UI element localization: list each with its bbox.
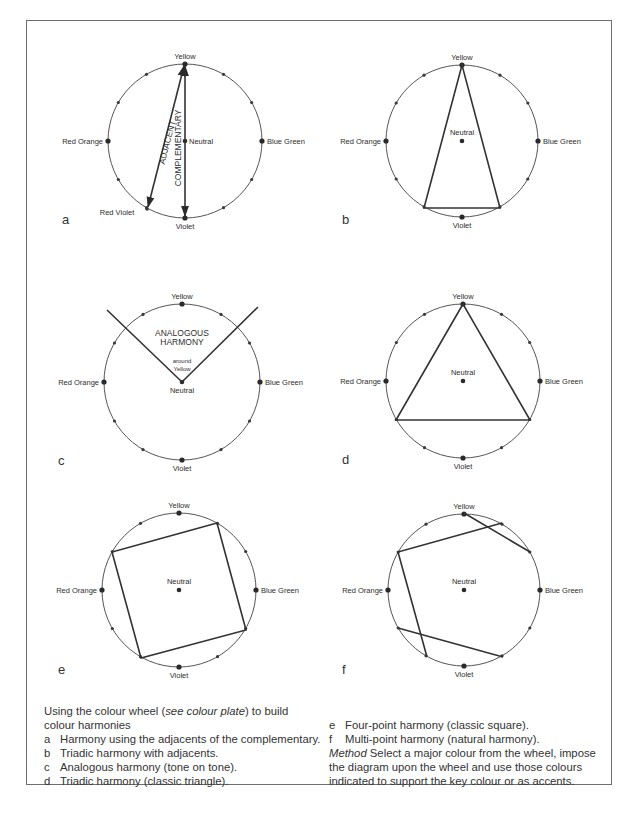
primary-hue-dot — [179, 301, 184, 306]
neutral-label: Neutral — [452, 577, 477, 586]
caption-item-f: fMulti-point harmony (natural harmony). — [329, 732, 614, 746]
hue-dot — [111, 627, 114, 630]
primary-hue-dot — [537, 378, 542, 383]
hue-dot — [395, 341, 398, 344]
colour-wheel-f: YellowVioletRed OrangeBlue GreenNeutral — [342, 502, 583, 679]
violet-label: Violet — [176, 222, 196, 231]
neutral-label: Neutral — [189, 137, 214, 146]
hue-dot — [250, 178, 253, 181]
blue-green-label: Blue Green — [545, 586, 583, 595]
multipoint-line-2 — [398, 523, 502, 657]
red-orange-label: Red Orange — [340, 137, 381, 146]
hue-dot — [250, 101, 253, 104]
hue-dot — [423, 313, 426, 316]
primary-hue-dot — [535, 138, 540, 143]
primary-hue-dot — [257, 379, 262, 384]
caption-item-d: dTriadic harmony (classic triangle). — [44, 774, 334, 788]
panel-letter-a: a — [62, 212, 70, 227]
hue-dot — [528, 341, 531, 344]
panel-a: YellowVioletRed OrangeBlue GreenNeutral … — [62, 52, 305, 231]
caption-method-line3: indicated to support the key colour or a… — [329, 774, 614, 788]
primary-hue-dot — [259, 138, 264, 143]
primary-hue-dot — [253, 587, 258, 592]
blue-green-label: Blue Green — [265, 378, 303, 387]
hue-dot — [219, 313, 222, 316]
hue-dot — [145, 73, 148, 76]
classic-triangle — [396, 304, 530, 420]
hue-dot — [113, 419, 116, 422]
red-violet-label: Red Violet — [100, 208, 135, 217]
primary-hue-dot — [182, 61, 187, 66]
blue-green-label: Blue Green — [545, 377, 583, 386]
colour-wheel-c: YellowVioletRed OrangeBlue GreenNeutral — [58, 292, 303, 473]
analogous-sub-1: around — [173, 358, 192, 364]
violet-label: Violet — [453, 221, 473, 230]
primary-hue-dot — [176, 664, 181, 669]
primary-hue-dot — [383, 138, 388, 143]
multipoint-line-1 — [464, 513, 530, 552]
primary-hue-dot — [105, 138, 110, 143]
hue-dot — [424, 523, 427, 526]
blue-green-label: Blue Green — [261, 586, 299, 595]
hue-dot — [117, 101, 120, 104]
caption-item-b: bTriadic harmony with adjacents. — [44, 746, 334, 760]
hue-dot — [395, 177, 398, 180]
blue-green-label: Blue Green — [267, 137, 305, 146]
neutral-dot — [177, 588, 182, 593]
primary-hue-dot — [101, 379, 106, 384]
analogous-title-2: HARMONY — [160, 337, 204, 347]
panel-d: YellowVioletRed OrangeBlue GreenNeutral … — [340, 292, 583, 471]
panel-c: YellowVioletRed OrangeBlue GreenNeutral … — [58, 292, 303, 473]
neutral-label: Neutral — [167, 577, 192, 586]
primary-hue-dot — [460, 455, 465, 460]
hue-dot — [113, 341, 116, 344]
violet-label: Violet — [173, 464, 193, 473]
colour-harmony-diagrams: YellowVioletRed OrangeBlue GreenNeutral … — [0, 0, 630, 819]
colour-wheel-a: YellowVioletRed OrangeBlue GreenNeutral — [62, 52, 305, 231]
primary-hue-dot — [461, 663, 466, 668]
hue-dot — [117, 178, 120, 181]
neutral-dot — [461, 379, 466, 384]
panel-letter-e: e — [58, 662, 65, 677]
primary-hue-dot — [179, 457, 184, 462]
red-orange-label: Red Orange — [62, 137, 103, 146]
hue-dot — [526, 101, 529, 104]
red-orange-label: Red Orange — [56, 586, 97, 595]
hue-dot — [141, 313, 144, 316]
primary-hue-dot — [176, 510, 181, 515]
primary-hue-dot — [385, 587, 390, 592]
hue-dot — [395, 101, 398, 104]
red-orange-label: Red Orange — [58, 378, 99, 387]
hue-dot — [423, 446, 426, 449]
hue-dot — [528, 626, 531, 629]
primary-hue-dot — [182, 215, 187, 220]
yellow-label: Yellow — [174, 52, 196, 61]
primary-hue-dot — [537, 587, 542, 592]
panel-letter-c: c — [58, 453, 65, 468]
yellow-label: Yellow — [453, 502, 475, 511]
caption-left-column: Using the colour wheel (see colour plate… — [44, 704, 334, 788]
colour-wheel-b: YellowVioletRed OrangeBlue GreenNeutral — [340, 53, 581, 230]
hue-dot — [219, 448, 222, 451]
hue-dot — [248, 341, 251, 344]
multipoint-line-3 — [398, 628, 503, 657]
panel-f: YellowVioletRed OrangeBlue GreenNeutral … — [342, 502, 583, 679]
hue-dot — [422, 74, 425, 77]
caption-method-line2: the diagram upon the wheel and use those… — [329, 760, 614, 774]
hue-dot — [222, 73, 225, 76]
hue-dot — [526, 177, 529, 180]
yellow-label: Yellow — [452, 292, 474, 301]
panel-e: YellowVioletRed OrangeBlue GreenNeutral … — [56, 501, 299, 680]
hue-dot — [244, 550, 247, 553]
yellow-label: Yellow — [451, 53, 473, 62]
violet-label: Violet — [455, 670, 475, 679]
primary-hue-dot — [459, 214, 464, 219]
neutral-label: Neutral — [170, 386, 195, 395]
colour-wheel-e: YellowVioletRed OrangeBlue GreenNeutral — [56, 501, 299, 680]
caption-item-c: cAnalogous harmony (tone on tone). — [44, 760, 334, 774]
caption-intro-line2: colour harmonies — [44, 718, 334, 732]
violet-label: Violet — [454, 462, 474, 471]
neutral-label: Neutral — [451, 368, 476, 377]
hue-dot — [222, 206, 225, 209]
caption-item-a: aHarmony using the adjacents of the comp… — [44, 732, 334, 746]
